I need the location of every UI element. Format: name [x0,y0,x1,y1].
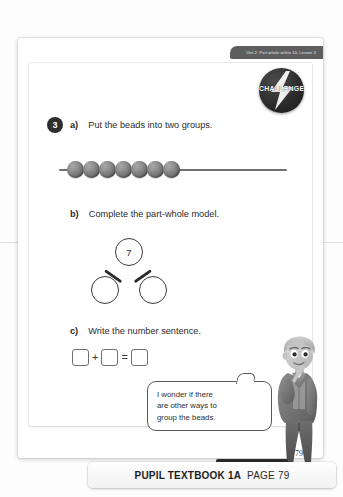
part-whole-whole-circle[interactable]: 7 [115,238,143,266]
part-c-marker: c) [70,326,78,336]
bottom-bar-page: PAGE 79 [247,470,289,481]
bead [83,161,100,178]
bead [147,161,164,178]
speech-line-1: I wonder if there [157,389,263,400]
part-a-line: a) Put the beads into two groups. [70,120,212,130]
challenge-label: CHALLENGE [259,85,304,92]
plus-sign: + [92,352,98,363]
challenge-badge: CHALLENGE [259,68,304,113]
bead [115,161,132,178]
textbook-page-screen: Unit 2: Part-whole within 10, Lesson 3 C… [0,0,343,497]
part-whole-whole-value: 7 [126,247,131,258]
number-sentence: + = [72,349,148,366]
part-whole-part-left-circle[interactable] [91,276,119,304]
part-a-marker: a) [70,120,78,130]
speech-bubble: I wonder if there are other ways to grou… [147,381,272,431]
bottom-bar-title: PUPIL TEXTBOOK 1A [135,470,242,481]
bead [131,161,148,178]
part-b-line: b) Complete the part-whole model. [70,209,219,219]
speech-line-2: are other ways to [157,400,263,411]
speech-bubble-tail-mask [239,381,254,385]
part-whole-model: 7 [89,238,173,304]
question-number-label: 3 [52,120,57,130]
part-c-text: Write the number sentence. [88,326,201,336]
page-number-label: 79 [295,449,303,458]
part-whole-part-right-circle[interactable] [139,276,167,304]
bead [163,161,180,178]
part-a-text: Put the beads into two groups. [88,120,212,130]
speech-line-3: group the beads. [157,412,263,423]
bead-string [59,160,289,180]
bead [99,161,116,178]
answer-box-2[interactable] [101,349,118,366]
page-number: 79 [295,449,303,458]
page-sheet: Unit 2: Part-whole within 10, Lesson 3 C… [18,38,323,458]
unit-lesson-label: Unit 2: Part-whole within 10, Lesson 3 [246,51,316,55]
unit-lesson-tab: Unit 2: Part-whole within 10, Lesson 3 [230,46,323,59]
part-b-marker: b) [70,209,79,219]
part-b-text: Complete the part-whole model. [89,209,219,219]
question-content-card: CHALLENGE 3 a) Put the beads into two gr… [29,63,312,426]
part-c-line: c) Write the number sentence. [70,326,201,336]
question-number-badge: 3 [47,117,63,133]
answer-box-3[interactable] [131,349,148,366]
equals-sign: = [121,352,127,363]
bead [67,161,84,178]
answer-box-1[interactable] [72,349,89,366]
bottom-status-bar: PUPIL TEXTBOOK 1A PAGE 79 [88,462,336,488]
